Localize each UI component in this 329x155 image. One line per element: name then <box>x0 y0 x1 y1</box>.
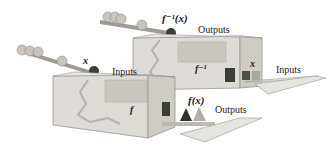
output-platform <box>180 118 262 142</box>
ball-icon <box>33 47 43 57</box>
cube-light-icon <box>252 71 260 80</box>
inner-window <box>105 80 147 102</box>
cube-dark-icon <box>242 71 250 80</box>
inverse-input-symbol: x <box>250 58 255 69</box>
function-outputs-text: Outputs <box>215 104 247 115</box>
cone-light-icon <box>193 107 206 121</box>
cone-dark-icon <box>180 108 192 121</box>
function-inputs-text: Inputs <box>112 66 137 77</box>
function-input-symbol: x <box>83 55 88 66</box>
ball-icon <box>137 20 147 30</box>
inverse-output-label: f⁻¹(x) <box>162 12 188 25</box>
inverse-inputs-text: Inputs <box>276 64 301 75</box>
function-output-label: f(x) <box>188 94 205 106</box>
inner-window <box>178 42 226 62</box>
slot-icon <box>225 68 235 82</box>
function-machine-label: f <box>130 104 133 115</box>
ball-icon <box>57 56 67 66</box>
inverse-outputs-text: Outputs <box>198 24 230 35</box>
slot-icon <box>162 102 170 116</box>
output-rail <box>162 122 215 126</box>
inverse-machine-label: f⁻¹ <box>195 63 207 74</box>
function-box-side <box>148 75 175 138</box>
ball-icon <box>116 14 126 24</box>
